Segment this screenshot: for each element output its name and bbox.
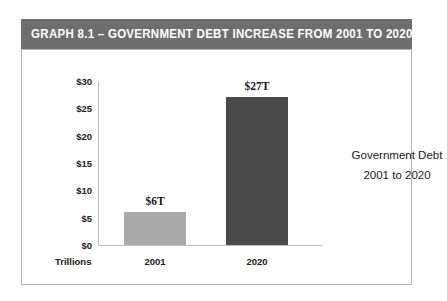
y-axis-unit-label: Trillions — [55, 256, 91, 267]
page-title: GRAPH 8.1 – GOVERNMENT DEBT INCREASE FRO… — [21, 27, 413, 41]
y-axis-tick-label: $30 — [76, 76, 92, 87]
bar-2001 — [124, 212, 186, 245]
plot-area: $6T$27T — [98, 81, 318, 245]
y-axis-tick-label: $10 — [76, 185, 92, 196]
annotation-line-1: Government Debt — [327, 145, 447, 165]
y-axis-line — [98, 81, 99, 245]
x-axis-line — [98, 245, 322, 246]
y-axis-tick-label: $25 — [76, 103, 92, 114]
x-axis-tick-label: 2001 — [144, 256, 165, 267]
y-axis-tick-label: $20 — [76, 130, 92, 141]
y-axis-tick-label: $5 — [81, 212, 92, 223]
y-axis-tick-label: $15 — [76, 158, 92, 169]
graph-title-bar: GRAPH 8.1 – GOVERNMENT DEBT INCREASE FRO… — [21, 19, 412, 49]
chart-annotation: Government Debt 2001 to 2020 — [327, 145, 447, 185]
annotation-line-2: 2001 to 2020 — [327, 165, 447, 185]
bar-2020 — [226, 97, 288, 245]
y-axis-tick-labels: $0$5$10$15$20$25$30 — [48, 81, 92, 245]
bar-value-label: $6T — [145, 195, 164, 207]
x-axis-tick-label: 2020 — [246, 256, 267, 267]
bar-value-label: $27T — [245, 80, 270, 92]
y-axis-tick-label: $0 — [81, 240, 92, 251]
chart-panel: $0$5$10$15$20$25$30 $6T$27T 20012020 Tri… — [21, 49, 412, 285]
